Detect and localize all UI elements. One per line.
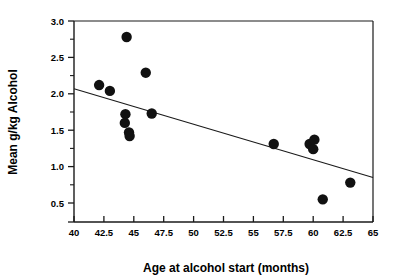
x-tick-label: 50 — [188, 227, 199, 238]
x-tick-label: 62.5 — [334, 227, 353, 238]
data-point — [121, 32, 131, 42]
y-tick-label: 0.5 — [51, 198, 65, 209]
data-point — [318, 194, 328, 204]
x-tick-label: 60 — [308, 227, 319, 238]
data-point — [120, 118, 130, 128]
data-point — [345, 177, 355, 187]
data-point — [147, 108, 157, 118]
x-tick-labels: 4042.54547.55052.55557.56062.565 — [69, 227, 379, 238]
x-tick-label: 45 — [129, 227, 140, 238]
y-tick-label: 2.5 — [51, 52, 65, 63]
data-point — [94, 80, 104, 90]
y-tick-label: 2.0 — [51, 88, 64, 99]
y-tick-label: 1.5 — [51, 125, 65, 136]
y-tick-label: 3.0 — [51, 16, 64, 27]
x-tick-label: 57.5 — [274, 227, 293, 238]
y-axis-title: Mean g/kg Alcohol — [6, 69, 20, 175]
x-tick-label: 55 — [248, 227, 259, 238]
data-points — [94, 32, 356, 205]
y-tick-labels: 0.51.01.52.02.53.0 — [51, 16, 65, 209]
data-point — [124, 131, 134, 141]
x-tick-label: 65 — [368, 227, 379, 238]
x-tick-label: 47.5 — [154, 227, 173, 238]
x-axis-title: Age at alcohol start (months) — [143, 261, 309, 275]
data-point — [269, 139, 279, 149]
plot-frame — [74, 21, 373, 222]
scatter-chart: 4042.54547.55052.55557.56062.565 0.51.01… — [0, 0, 397, 280]
trend-line — [74, 89, 373, 178]
y-tick-label: 1.0 — [51, 161, 64, 172]
axis-ticks — [68, 21, 373, 222]
x-tick-label: 42.5 — [95, 227, 114, 238]
x-tick-label: 52.5 — [214, 227, 233, 238]
regression-line — [74, 89, 373, 178]
plot-area: 4042.54547.55052.55557.56062.565 0.51.01… — [0, 0, 397, 280]
x-tick-label: 40 — [69, 227, 80, 238]
data-point — [308, 144, 318, 154]
data-point — [141, 67, 151, 77]
data-point — [105, 86, 115, 96]
data-point — [309, 134, 319, 144]
